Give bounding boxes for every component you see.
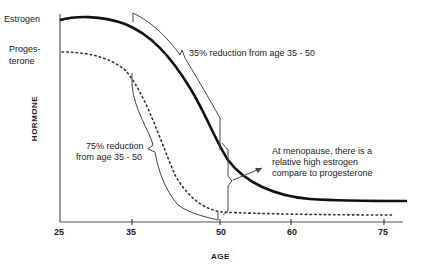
menopause-annotation-line3: compare to progesterone [272,168,373,179]
x-axis-title: AGE [211,252,230,261]
progesterone-reduction-bracket [132,73,218,220]
chart-plot [0,0,427,278]
menopause-annotation-line1: At menopause, there is a [272,146,372,157]
estrogen-label: Estrogen [4,14,40,25]
menopause-annotation-line2: relative high estrogen [272,157,358,168]
x-tick-35: 35 [126,227,136,237]
y-axis-title: HORMONE [30,94,39,144]
progesterone-reduction-annotation-line1: 75% reduction [86,141,144,152]
hormone-chart: Estrogen Proges- terone HORMONE 25 35 50… [0,0,427,278]
progesterone-label-line2: terone [9,56,35,67]
progesterone-label-line1: Proges- [9,44,41,55]
x-tick-60: 60 [287,227,297,237]
estrogen-reduction-bracket [133,13,220,150]
x-tick-50: 50 [216,227,226,237]
progesterone-line [62,52,392,215]
x-tick-25: 25 [54,227,64,237]
progesterone-reduction-annotation-line2: from age 35 - 50 [76,152,142,163]
estrogen-reduction-annotation: 35% reduction from age 35 - 50 [189,48,315,59]
x-tick-75: 75 [378,227,388,237]
